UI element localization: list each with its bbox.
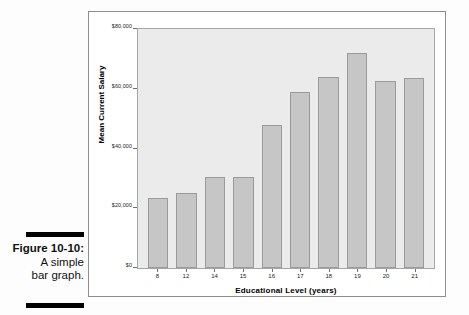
y-axis-tick: $20,000 bbox=[89, 207, 137, 208]
figure-caption-block: Figure 10-10: A simple bar graph. bbox=[0, 232, 86, 310]
x-axis-tick: 19 bbox=[343, 269, 372, 283]
y-axis-tick-label: $60,000 bbox=[112, 83, 132, 89]
x-axis-tick-label: 17 bbox=[286, 273, 315, 279]
x-axis-tick: 12 bbox=[172, 269, 201, 283]
x-axis-tick-mark bbox=[186, 269, 187, 272]
y-axis: Mean Current Salary $0$20,000$40,000$60,… bbox=[89, 12, 137, 298]
x-axis-tick-mark bbox=[157, 269, 158, 272]
x-axis-tick-label: 21 bbox=[400, 273, 429, 279]
x-axis-tick-label: 16 bbox=[257, 273, 286, 279]
bar[interactable] bbox=[148, 198, 168, 268]
y-axis-tick: $60,000 bbox=[89, 88, 137, 89]
x-axis-tick-mark bbox=[272, 269, 273, 272]
x-axis-tick-mark bbox=[300, 269, 301, 272]
x-axis-tick-mark bbox=[214, 269, 215, 272]
x-axis-tick-mark bbox=[415, 269, 416, 272]
y-axis-tick: $0 bbox=[89, 267, 137, 268]
bar-slot bbox=[229, 29, 257, 268]
x-axis-tick-label: 19 bbox=[343, 273, 372, 279]
y-axis-tick-label: $80,000 bbox=[112, 23, 132, 29]
figure-frame: Mean Current Salary $0$20,000$40,000$60,… bbox=[88, 11, 446, 297]
x-tick-row: 8121415161718192021 bbox=[137, 269, 435, 283]
caption-rule-bottom bbox=[26, 303, 84, 308]
caption-rule-top bbox=[26, 232, 84, 237]
bar[interactable] bbox=[233, 177, 253, 268]
x-axis-tick-label: 18 bbox=[315, 273, 344, 279]
x-axis-tick: 8 bbox=[143, 269, 172, 283]
x-axis-tick-label: 8 bbox=[143, 273, 172, 279]
figure-caption-line-2: A simple bbox=[0, 256, 84, 270]
x-axis-tick-label: 12 bbox=[172, 273, 201, 279]
y-axis-title: Mean Current Salary bbox=[97, 50, 106, 160]
x-axis-title: Educational Level (years) bbox=[137, 286, 435, 295]
bar-series bbox=[138, 29, 434, 268]
bar-slot bbox=[144, 29, 172, 268]
y-axis-tick: $40,000 bbox=[89, 148, 137, 149]
figure-caption-line-3: bar graph. bbox=[0, 269, 84, 283]
y-axis-tick-label: $40,000 bbox=[112, 143, 132, 149]
bar-slot bbox=[258, 29, 286, 268]
bar-slot bbox=[314, 29, 342, 268]
plot-area bbox=[137, 28, 435, 269]
bar-slot bbox=[172, 29, 200, 268]
bar[interactable] bbox=[205, 177, 225, 268]
x-axis-tick-mark bbox=[243, 269, 244, 272]
bar[interactable] bbox=[318, 77, 338, 268]
x-axis-tick: 16 bbox=[257, 269, 286, 283]
bar-slot bbox=[371, 29, 399, 268]
bar-slot bbox=[400, 29, 428, 268]
bar[interactable] bbox=[347, 53, 367, 268]
bar-chart: Mean Current Salary $0$20,000$40,000$60,… bbox=[89, 12, 447, 298]
x-axis-tick: 14 bbox=[200, 269, 229, 283]
x-axis-tick-label: 14 bbox=[200, 273, 229, 279]
bar[interactable] bbox=[375, 81, 395, 268]
x-axis-tick: 17 bbox=[286, 269, 315, 283]
x-axis-tick-mark bbox=[386, 269, 387, 272]
y-axis-tick-label: $20,000 bbox=[112, 202, 132, 208]
figure-caption-text: Figure 10-10: A simple bar graph. bbox=[0, 242, 84, 283]
y-axis-tick-label: $0 bbox=[126, 262, 132, 268]
bar[interactable] bbox=[176, 193, 196, 268]
x-axis-tick: 15 bbox=[229, 269, 258, 283]
bar-slot bbox=[201, 29, 229, 268]
y-axis-tick: $80,000 bbox=[89, 28, 137, 29]
bar[interactable] bbox=[290, 92, 310, 268]
figure-caption-title: Figure 10-10: bbox=[0, 242, 84, 256]
bar-slot bbox=[286, 29, 314, 268]
x-axis-tick: 21 bbox=[400, 269, 429, 283]
x-axis-tick-mark bbox=[357, 269, 358, 272]
bar[interactable] bbox=[404, 78, 424, 268]
x-axis-tick: 18 bbox=[315, 269, 344, 283]
x-axis-tick-mark bbox=[329, 269, 330, 272]
x-axis-tick-label: 20 bbox=[372, 273, 401, 279]
x-axis-tick: 20 bbox=[372, 269, 401, 283]
x-axis: 8121415161718192021 Educational Level (y… bbox=[137, 269, 435, 298]
bar-slot bbox=[343, 29, 371, 268]
bar[interactable] bbox=[262, 125, 282, 268]
x-axis-tick-label: 15 bbox=[229, 273, 258, 279]
